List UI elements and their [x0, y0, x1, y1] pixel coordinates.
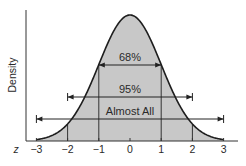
x-tick-label: 2	[189, 143, 195, 155]
x-tick-label: −3	[30, 143, 42, 155]
interval-label: Almost All	[106, 105, 154, 117]
interval-label: 68%	[119, 51, 141, 63]
x-tick-label: 1	[158, 143, 164, 155]
y-axis-label: Density	[6, 57, 18, 93]
x-tick-label: 3	[221, 143, 227, 155]
arrow-head-left-icon	[36, 117, 42, 122]
x-tick-label: 0	[127, 143, 133, 155]
shaded-area	[36, 15, 223, 141]
arrow-head-left-icon	[68, 95, 74, 100]
chart-canvas: 68%95%Almost All−3−2−10123zDensity	[0, 0, 246, 166]
interval-label: 95%	[119, 83, 141, 95]
arrow-head-right-icon	[186, 95, 192, 100]
x-axis-label: z	[12, 143, 19, 155]
normal-distribution-chart: 68%95%Almost All−3−2−10123zDensity	[0, 0, 246, 166]
shaded-area-fill	[36, 15, 223, 141]
arrow-head-right-icon	[218, 117, 224, 122]
x-tick-label: −2	[62, 143, 74, 155]
x-tick-label: −1	[93, 143, 105, 155]
